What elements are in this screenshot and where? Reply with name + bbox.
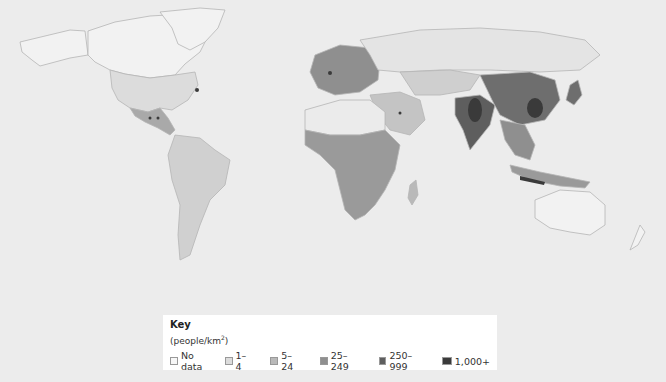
key-label: 25–249: [331, 350, 357, 372]
key-label: No data: [181, 350, 209, 372]
swatch-no-data: [170, 357, 178, 365]
key-label: 1–4: [236, 350, 249, 372]
key-unit: (people/km2): [170, 331, 490, 348]
key-items: No data 1–4 5–24 25–249 250–999 1,000+: [170, 350, 490, 372]
key-item-5-24: 5–24: [270, 350, 297, 372]
swatch-5-24: [270, 357, 278, 365]
key-label: 250–999: [389, 350, 419, 372]
key-item-25-249: 25–249: [320, 350, 357, 372]
map-key-legend: Key (people/km2) No data 1–4 5–24 25–249…: [163, 315, 497, 370]
key-label: 1,000+: [455, 356, 490, 367]
key-label: 5–24: [281, 350, 298, 372]
key-item-1-4: 1–4: [225, 350, 249, 372]
key-item-no-data: No data: [170, 350, 209, 372]
key-item-1000-plus: 1,000+: [442, 356, 490, 367]
key-title: Key: [170, 319, 490, 331]
key-item-250-999: 250–999: [379, 350, 420, 372]
swatch-1000-plus: [442, 357, 452, 365]
swatch-1-4: [225, 357, 233, 365]
swatch-25-249: [320, 357, 328, 365]
swatch-250-999: [379, 357, 387, 365]
